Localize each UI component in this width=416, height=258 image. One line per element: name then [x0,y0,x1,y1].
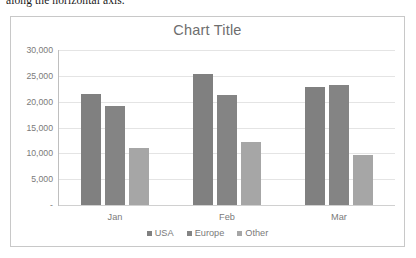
y-axis-tick-label: 25,000 [26,71,53,81]
bar[interactable] [129,148,149,205]
bar-group: Jan [59,50,171,205]
chart-container[interactable]: Chart Title 30,00025,00020,00015,00010,0… [10,16,405,247]
y-axis-tick-label: 30,000 [26,45,53,55]
y-axis-tick-label: 5,000 [31,174,53,184]
chart-legend[interactable]: USAEuropeOther [11,229,404,238]
y-axis-tick-label: 10,000 [26,148,53,158]
bar[interactable] [193,74,213,205]
legend-item[interactable]: Europe [187,229,225,238]
bar[interactable] [329,85,349,205]
legend-item[interactable]: USA [147,229,174,238]
legend-swatch-icon [237,231,242,236]
legend-label: Other [245,229,268,238]
y-axis-tick-label: 15,000 [26,123,53,133]
plot-area[interactable]: 30,00025,00020,00015,00010,0005,000-JanF… [59,50,395,205]
bar[interactable] [241,142,261,205]
category-axis-label: Jan [59,212,171,222]
gridline: - [59,205,395,206]
document-body-text: along the horizontal axis. [6,0,306,8]
bar[interactable] [305,87,325,205]
bar-group: Mar [283,50,395,205]
bar[interactable] [217,95,237,205]
chart-title[interactable]: Chart Title [11,22,404,38]
bar-group: Feb [171,50,283,205]
legend-label: USA [155,229,174,238]
legend-swatch-icon [187,231,192,236]
y-axis-tick-label: 20,000 [26,97,53,107]
legend-item[interactable]: Other [237,229,268,238]
bar[interactable] [105,106,125,205]
legend-label: Europe [195,229,225,238]
y-axis-tick-label: - [50,200,53,210]
category-axis-label: Feb [171,212,283,222]
bar[interactable] [353,155,373,205]
category-axis-label: Mar [283,212,395,222]
bar[interactable] [81,94,101,205]
legend-swatch-icon [147,231,152,236]
